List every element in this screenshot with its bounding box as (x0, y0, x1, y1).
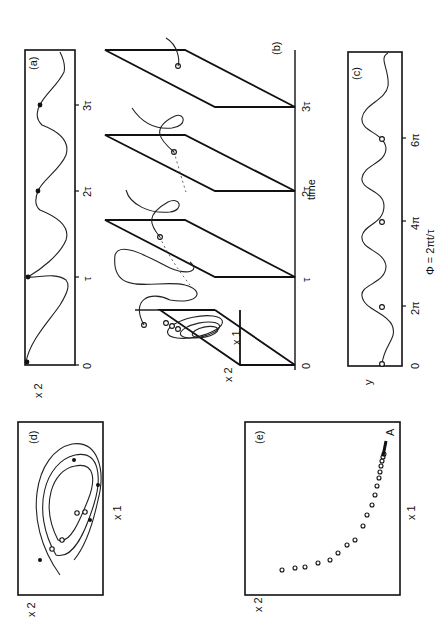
panel-c-xlabel: Φ = 2πt/τ (424, 229, 436, 275)
panel-d-ylabel: x 2 (25, 602, 37, 617)
panel-c: y 0 2π 4π 6π Φ = 2πt/τ (c) (348, 52, 436, 385)
panel-b-plane-2 (105, 135, 295, 191)
panel-c-tick-3: 6π (409, 133, 421, 147)
panel-a-tick-3: 3τ (81, 100, 93, 111)
panel-a-waveform (26, 52, 68, 362)
panel-e-ylabel: x 2 (252, 597, 264, 612)
panel-b-tick-0: 0 (300, 363, 312, 369)
panel-e-points (280, 441, 386, 572)
panel-b-plane-1 (105, 220, 295, 277)
panel-b-tick-3: 3τ (300, 101, 312, 112)
panel-d-label: (d) (27, 431, 39, 444)
panel-c-waveform (362, 53, 394, 364)
panel-e: A x 2 x 1 (e) (245, 422, 417, 612)
panel-b: time 0 τ 2τ 3τ (b) x 1 x 2 (105, 38, 317, 382)
panel-d: x 2 x 1 (d) (18, 422, 123, 617)
panel-b-plane-x2-label: x 2 (222, 367, 234, 382)
panel-b-tick-1: τ (300, 277, 312, 282)
panel-c-label: (c) (350, 67, 362, 80)
figure-canvas: x 2 0 τ 2τ 3τ (a) (0, 0, 446, 639)
panel-c-ylabel: y (362, 379, 374, 385)
panel-b-plane-3 (105, 50, 295, 107)
panel-a-ylabel: x 2 (32, 383, 44, 398)
panel-d-xlabel: x 1 (111, 505, 123, 520)
panel-a-label: (a) (27, 57, 39, 70)
panel-b-tick-2: 2τ (300, 186, 312, 197)
panel-a-tick-2: 2τ (81, 186, 93, 197)
panel-e-frame (245, 422, 400, 595)
panel-c-tick-1: 2π (409, 301, 421, 315)
panel-a: x 2 0 τ 2τ 3τ (a) (25, 50, 93, 398)
panel-c-tick-2: 4π (409, 216, 421, 230)
panel-e-point-label: A (384, 428, 396, 436)
panel-e-label: (e) (253, 431, 265, 444)
panel-a-tick-0: 0 (81, 363, 93, 369)
panel-e-xlabel: x 1 (405, 505, 417, 520)
panel-c-frame (348, 52, 402, 366)
panel-b-label: (b) (270, 42, 282, 55)
panel-a-tick-1: τ (81, 276, 93, 281)
panel-c-tick-0: 0 (409, 363, 421, 369)
panel-b-plane-x1-label: x 1 (230, 330, 242, 345)
